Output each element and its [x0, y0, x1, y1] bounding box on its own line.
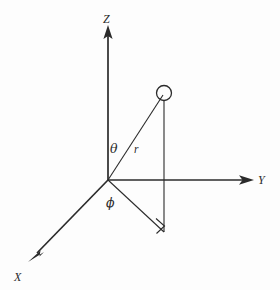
x-axis-line — [37, 180, 108, 253]
spherical-coordinates-diagram: Z Y X θ ϕ r — [0, 0, 280, 290]
point-marker-circle — [157, 86, 172, 101]
phi-angle-label: ϕ — [106, 195, 115, 210]
x-axis-label: X — [13, 270, 22, 284]
ground-projection-line — [108, 180, 164, 232]
z-axis-label: Z — [103, 12, 110, 26]
z-axis — [103, 25, 112, 180]
theta-angle-label: θ — [110, 141, 118, 156]
y-axis — [108, 175, 254, 185]
x-axis-arrowhead — [28, 251, 44, 263]
radius-label: r — [134, 143, 139, 155]
x-axis — [28, 180, 108, 262]
coordinate-system-svg: Z Y X θ ϕ r — [0, 0, 280, 290]
y-axis-label: Y — [258, 173, 266, 187]
radius-line-r — [108, 95, 163, 180]
